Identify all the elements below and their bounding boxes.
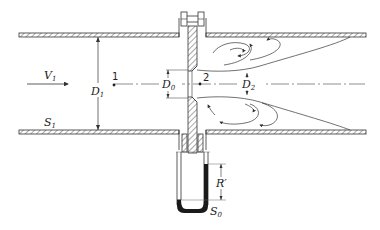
downstream-pipe xyxy=(206,33,366,134)
jet-streamlines xyxy=(197,37,350,130)
upstream-bottom-wall xyxy=(19,130,179,134)
manometer-fluid xyxy=(177,164,208,213)
upstream-top-wall xyxy=(19,33,179,37)
orifice-meter-diagram: V1 D1 1 D0 2 D2 xyxy=(0,0,380,230)
upper-eddies xyxy=(213,39,280,65)
orifice-plate xyxy=(188,26,197,153)
section-2-label: 2 xyxy=(203,72,209,83)
downstream-top-wall xyxy=(206,33,366,37)
section-2-point xyxy=(199,83,202,86)
manometer xyxy=(177,152,208,213)
surface-1-label: S1 xyxy=(44,116,56,130)
downstream-bottom-wall xyxy=(206,130,366,134)
section-1-point xyxy=(113,84,116,87)
velocity-label: V1 xyxy=(44,69,56,83)
manometer-reading-label: R′ xyxy=(215,177,227,190)
top-bolt-icon xyxy=(181,12,204,26)
pipe-diameter-dimension xyxy=(89,37,107,130)
manometer-fluid-label: S0 xyxy=(210,205,223,219)
lower-eddies xyxy=(208,103,277,126)
section-1-label: 1 xyxy=(112,71,118,82)
